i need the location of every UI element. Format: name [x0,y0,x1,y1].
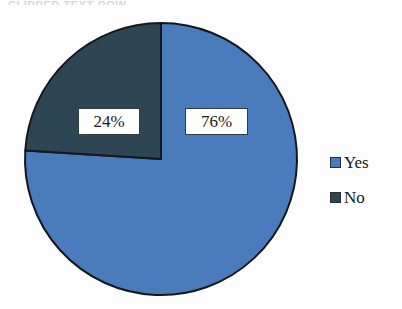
legend-label-yes: Yes [344,154,369,171]
chart-legend: Yes No [330,152,400,222]
data-label-no: 24% [78,108,140,135]
legend-item-yes[interactable]: Yes [330,152,400,173]
legend-label-no: No [344,189,365,206]
pie-slice-group [25,23,297,295]
legend-swatch-yes-icon [330,157,341,168]
legend-swatch-no-icon [330,192,341,203]
pie-chart-screenshot: CLIPPED TEXT ROW 24% 76% Yes No [0,0,402,309]
pie-slice-no[interactable] [25,23,161,159]
data-label-yes: 76% [185,108,248,135]
legend-item-no[interactable]: No [330,187,400,208]
